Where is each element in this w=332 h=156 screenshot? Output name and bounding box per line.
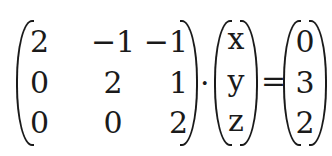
matrix-a-r3c1: 0 (30, 108, 70, 138)
right-paren-matrix-a (180, 20, 198, 146)
matrix-a-r3c2: 0 (88, 108, 138, 138)
matrix-a-r2c2: 2 (88, 68, 138, 98)
matrix-a-r2c1: 0 (30, 68, 70, 98)
multiply-operator: · (200, 68, 210, 98)
matrix-a-r1c2: −1 (88, 27, 138, 57)
matrix-a-r1c1: 2 (30, 27, 70, 57)
